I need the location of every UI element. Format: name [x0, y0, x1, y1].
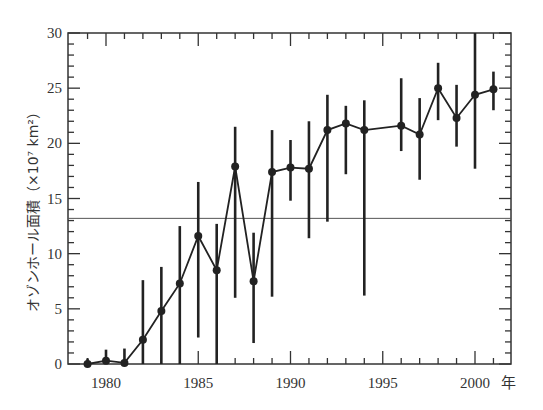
data-point [342, 119, 350, 127]
x-tick-label: 1985 [183, 375, 213, 391]
x-tick-label: 1990 [276, 375, 306, 391]
data-point [305, 165, 313, 173]
y-tick-label: 15 [47, 191, 62, 207]
data-point [250, 277, 258, 285]
data-point [397, 122, 405, 130]
x-axis-label: 年 [501, 375, 516, 391]
y-tick-label: 0 [55, 356, 63, 372]
data-point [176, 279, 184, 287]
x-tick-label: 1980 [91, 375, 121, 391]
data-point [231, 163, 239, 171]
y-tick-label: 30 [47, 25, 62, 41]
data-point [84, 360, 92, 368]
y-tick-label: 20 [47, 135, 62, 151]
data-point [471, 91, 479, 99]
y-tick-label: 25 [47, 80, 62, 96]
data-point [213, 266, 221, 274]
data-point [416, 131, 424, 139]
data-point [102, 357, 110, 365]
y-tick-label: 5 [55, 301, 63, 317]
data-point [489, 85, 497, 93]
data-point [360, 126, 368, 134]
data-point [268, 168, 276, 176]
data-point [453, 114, 461, 122]
x-tick-label: 1995 [368, 375, 398, 391]
x-tick-label: 2000 [460, 375, 490, 391]
axis-labels: 05101520253019801985199019952000年オゾンホール面… [25, 25, 516, 391]
data-point [434, 84, 442, 92]
y-axis-label: オゾンホール面積（×10⁷ km²） [25, 105, 41, 312]
data-point [139, 336, 147, 344]
data-point [323, 126, 331, 134]
data-polyline [88, 88, 494, 364]
y-tick-label: 10 [47, 246, 62, 262]
ozone-chart: 05101520253019801985199019952000年オゾンホール面… [0, 0, 543, 410]
data-line [84, 84, 498, 368]
error-bars [88, 33, 494, 364]
data-point [287, 164, 295, 172]
data-point [120, 359, 128, 367]
data-point [157, 307, 165, 315]
data-point [194, 232, 202, 240]
